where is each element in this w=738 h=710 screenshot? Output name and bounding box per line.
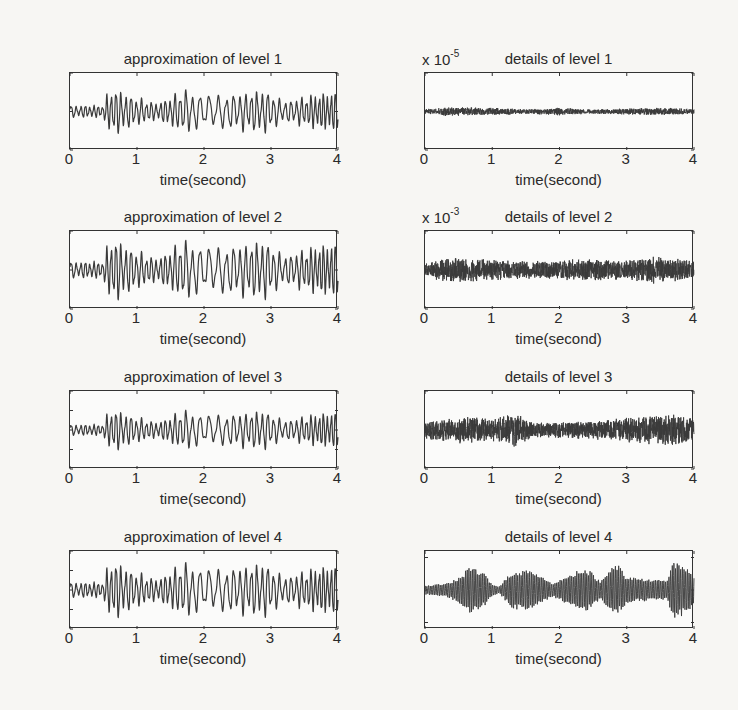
x-tick-label: 2	[199, 309, 207, 326]
x-tick-label: 2	[554, 469, 562, 486]
x-tick-label: 4	[689, 629, 697, 646]
subplot-title: details of level 3	[505, 368, 613, 385]
x-tick-label: 1	[487, 629, 495, 646]
x-axis-label: time(second)	[160, 650, 247, 667]
signal-line	[425, 415, 694, 447]
x-tick-label: 2	[199, 150, 207, 167]
signal-plot	[425, 73, 694, 150]
wavelet-decomposition-figure: approximation of level 1 200-20 01234 ti…	[0, 0, 738, 710]
signal-plot	[425, 551, 694, 629]
plot-axes	[69, 550, 337, 628]
x-tick-label: 0	[65, 629, 73, 646]
signal-plot	[70, 391, 338, 469]
x-tick-label: 0	[420, 309, 428, 326]
x-tick-label: 1	[487, 469, 495, 486]
x-axis-label: time(second)	[160, 171, 247, 188]
signal-plot	[70, 73, 338, 150]
subplot-title: details of level 1	[505, 50, 613, 67]
x-tick-label: 4	[333, 469, 341, 486]
x-axis-label: time(second)	[160, 490, 247, 507]
x-tick-label: 3	[266, 469, 274, 486]
plot-axes	[424, 390, 693, 468]
x-tick-label: 3	[622, 150, 630, 167]
x-tick-label: 1	[132, 469, 140, 486]
x-tick-label: 3	[622, 469, 630, 486]
plot-axes	[69, 230, 337, 308]
signal-plot	[70, 231, 338, 309]
x-axis-label: time(second)	[515, 490, 602, 507]
signal-line	[70, 563, 338, 618]
signal-line	[70, 410, 338, 450]
x-tick-label: 3	[622, 629, 630, 646]
x-tick-label: 1	[487, 309, 495, 326]
x-tick-label: 0	[65, 309, 73, 326]
y-multiplier-label: x 10-5	[422, 50, 459, 68]
subplot-title: approximation of level 3	[124, 368, 282, 385]
x-tick-label: 4	[333, 309, 341, 326]
plot-axes	[69, 390, 337, 468]
x-tick-label: 2	[199, 469, 207, 486]
y-multiplier-base: x 10	[422, 209, 450, 226]
signal-plot	[425, 231, 694, 309]
x-tick-label: 4	[689, 469, 697, 486]
x-tick-label: 1	[132, 309, 140, 326]
x-axis-label: time(second)	[515, 171, 602, 188]
signal-plot	[425, 391, 694, 469]
x-axis-label: time(second)	[515, 330, 602, 347]
x-tick-label: 2	[554, 150, 562, 167]
x-tick-label: 0	[420, 469, 428, 486]
x-tick-label: 0	[65, 150, 73, 167]
signal-plot	[70, 551, 338, 629]
subplot-title: approximation of level 4	[124, 528, 282, 545]
subplot-title: details of level 4	[505, 528, 613, 545]
plot-axes	[424, 72, 693, 149]
y-multiplier-base: x 10	[422, 51, 450, 68]
signal-line	[425, 257, 694, 284]
x-tick-label: 3	[622, 309, 630, 326]
y-multiplier-exponent: -3	[450, 206, 459, 217]
x-axis-label: time(second)	[160, 330, 247, 347]
y-multiplier-exponent: -5	[450, 48, 459, 59]
plot-axes	[69, 72, 337, 149]
signal-line	[70, 240, 338, 299]
subplot-title: approximation of level 1	[124, 50, 282, 67]
signal-line	[425, 563, 694, 617]
x-tick-label: 4	[333, 629, 341, 646]
x-tick-label: 3	[266, 629, 274, 646]
x-axis-label: time(second)	[515, 650, 602, 667]
signal-line	[70, 90, 338, 134]
subplot-title: approximation of level 2	[124, 208, 282, 225]
plot-axes	[424, 550, 693, 628]
x-tick-label: 1	[487, 150, 495, 167]
x-tick-label: 2	[554, 309, 562, 326]
x-tick-label: 4	[689, 150, 697, 167]
signal-line	[425, 107, 694, 116]
x-tick-label: 1	[132, 629, 140, 646]
x-tick-label: 0	[420, 629, 428, 646]
x-tick-label: 3	[266, 150, 274, 167]
plot-axes	[424, 230, 693, 308]
x-tick-label: 1	[132, 150, 140, 167]
subplot-title: details of level 2	[505, 208, 613, 225]
x-tick-label: 0	[420, 150, 428, 167]
y-multiplier-label: x 10-3	[422, 208, 459, 226]
x-tick-label: 0	[65, 469, 73, 486]
x-tick-label: 4	[333, 150, 341, 167]
x-tick-label: 3	[266, 309, 274, 326]
x-tick-label: 4	[689, 309, 697, 326]
x-tick-label: 2	[554, 629, 562, 646]
x-tick-label: 2	[199, 629, 207, 646]
